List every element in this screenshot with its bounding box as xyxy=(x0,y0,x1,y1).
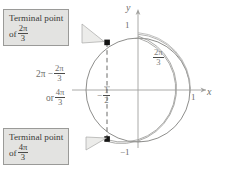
callout-terminal-point-2pi-3: Terminal point of2π3 xyxy=(3,9,69,46)
fraction-arc: 2π3 xyxy=(153,48,164,66)
callout-terminal-point-4pi-3: Terminal point of4π3 xyxy=(3,128,69,165)
callout-line-2: of2π3 xyxy=(9,24,63,42)
fraction-denominator: 3 xyxy=(18,153,29,162)
neg-sign: − xyxy=(97,91,102,101)
fraction-denominator: 3 xyxy=(18,34,29,43)
terminal-point-dot-upper xyxy=(104,40,110,46)
callout-of-text: of xyxy=(9,29,17,39)
x-axis-label: x xyxy=(207,86,211,97)
fraction-denominator: 3 xyxy=(153,58,164,67)
y-axis xyxy=(136,9,141,148)
fraction-denominator: 3 xyxy=(54,74,65,83)
callout-line-1: Terminal point xyxy=(9,132,63,142)
y-axis-tick-label-neg1: −1 xyxy=(120,147,130,157)
callout-leader-upper xyxy=(82,24,104,43)
fraction-sum: 2π3 xyxy=(54,64,65,82)
x-axis xyxy=(72,88,206,93)
y-axis-label: y xyxy=(126,2,130,13)
or-prefix: or xyxy=(46,93,54,103)
fraction-denominator: 3 xyxy=(55,98,66,107)
x-axis-tick-label-1: 1 xyxy=(191,92,196,102)
fraction-denominator: 2 xyxy=(103,96,109,105)
callout-leader-lower xyxy=(86,137,107,150)
callout-line-1: Terminal point xyxy=(9,13,63,23)
fraction-neg-half: 12 xyxy=(103,86,109,104)
label-sum-expression: 2π −2π3 xyxy=(36,64,66,82)
fraction-or: 4π3 xyxy=(55,88,66,106)
fraction-4pi-3: 4π3 xyxy=(18,143,29,161)
sum-prefix: 2π − xyxy=(36,69,53,79)
label-neg-one-half: −12 xyxy=(97,86,111,104)
fraction-2pi-3: 2π3 xyxy=(18,24,29,42)
label-arc-angle: 2π3 xyxy=(152,48,165,66)
label-or-expression: or4π3 xyxy=(46,88,66,106)
callout-line-2: of4π3 xyxy=(9,143,63,161)
callout-of-text: of xyxy=(9,148,17,158)
y-axis-tick-label-1: 1 xyxy=(125,20,130,30)
